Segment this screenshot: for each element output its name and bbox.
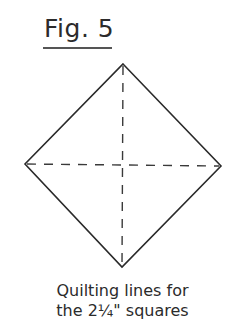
horizontal-quilting-line [27,164,219,166]
caption-line-2: the 2¼" squares [0,301,245,321]
figure-caption: Quilting lines for the 2¼" squares [0,281,245,321]
caption-line-1: Quilting lines for [0,281,245,301]
diamond-square-outline [25,64,221,267]
vertical-quilting-line [122,66,123,265]
quilting-diagram [0,0,245,327]
